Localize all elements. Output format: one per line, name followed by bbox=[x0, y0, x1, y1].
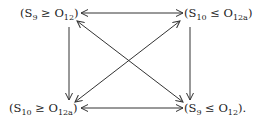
arrow-tr-bl bbox=[75, 21, 180, 102]
arrow-tl-br bbox=[77, 21, 183, 102]
arrows-layer bbox=[0, 0, 258, 125]
